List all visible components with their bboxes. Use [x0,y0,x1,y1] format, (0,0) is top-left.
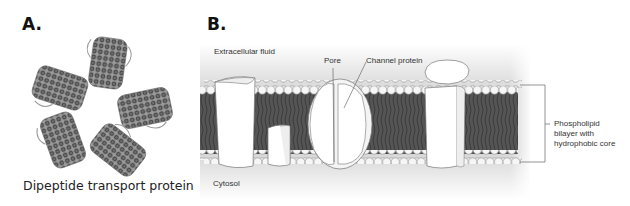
transmembrane-protein-2 [268,125,290,166]
cytosol-label: Cytosol [213,179,240,188]
transmembrane-protein-1 [215,77,255,168]
extracellular-fluid-label: Extracellular fluid [214,47,275,56]
bilayer-label: Phospholipid bilayer with hydrophobic co… [554,119,615,149]
transmembrane-protein-3 [425,60,469,168]
pore-label: Pore [324,56,341,65]
channel-protein-label: Channel protein [366,56,422,65]
membrane-diagram [0,0,630,206]
